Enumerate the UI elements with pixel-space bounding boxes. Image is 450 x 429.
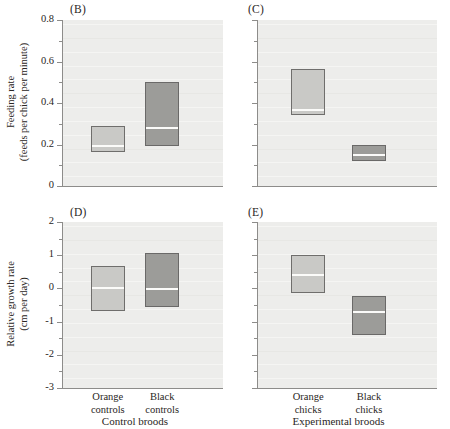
panel-d-yminortick — [59, 371, 63, 372]
panel-b-box-0 — [91, 126, 125, 152]
x-category-label-3: Blackchicks — [334, 391, 404, 416]
panel-b-ytick — [57, 103, 63, 104]
panel-b-ytick-label: 0.8 — [28, 13, 54, 24]
scan-band — [258, 38, 437, 39]
scan-band — [258, 121, 437, 122]
panel-d-ytick — [57, 222, 63, 223]
panel-b-plot-area — [63, 20, 223, 186]
panel-e-ytick — [252, 355, 258, 356]
scan-band — [63, 351, 223, 352]
scan-band — [63, 93, 223, 94]
panel-b-yminortick — [59, 82, 63, 83]
panel-b-yminortick — [59, 124, 63, 125]
scan-band — [63, 107, 223, 108]
panel-c-yminortick — [254, 124, 258, 125]
scan-band — [258, 309, 437, 310]
panel-b-y-axis-title-line2: (feeds per chick per minute) — [17, 17, 30, 187]
scan-band — [258, 337, 437, 338]
panel-b-box-1 — [145, 82, 179, 146]
panel-e-ytick — [252, 322, 258, 323]
panel-b-label: (B) — [70, 3, 86, 15]
panel-d-ytick-label: 0 — [28, 281, 54, 292]
scan-band — [258, 24, 437, 25]
scan-band — [63, 66, 223, 67]
scan-band — [258, 351, 437, 352]
scan-band — [63, 149, 223, 150]
panel-c-box-0 — [291, 69, 325, 115]
panel-d-y-axis-title-line1: Relative growth rate — [4, 219, 17, 389]
scan-band — [258, 93, 437, 94]
panel-e-ytick — [252, 255, 258, 256]
panel-d-median-0 — [92, 287, 124, 289]
panel-e-label: (E) — [248, 206, 263, 218]
scan-band — [63, 337, 223, 338]
scan-band — [258, 52, 437, 53]
scan-band — [63, 254, 223, 255]
panel-c-ytick — [252, 186, 258, 187]
panel-d-y-axis — [62, 222, 63, 388]
panel-e-median-1 — [353, 311, 385, 313]
panel-e-y-axis — [257, 222, 258, 388]
x-category-label-2: Orangechicks — [273, 391, 343, 416]
panel-e-yminortick — [254, 305, 258, 306]
panel-e-yminortick — [254, 239, 258, 240]
panel-d-plot-area — [63, 222, 223, 388]
scan-band — [63, 295, 223, 296]
scan-band — [258, 295, 437, 296]
panel-d-yminortick — [59, 338, 63, 339]
panel-b-y-axis-title: Feeding rate(feeds per chick per minute) — [4, 17, 30, 187]
panel-b-ytick-label: 0.2 — [28, 138, 54, 149]
panel-b-ytick — [57, 20, 63, 21]
panel-b-ytick-label: 0.6 — [28, 55, 54, 66]
scan-band — [258, 107, 437, 108]
panel-d-x-axis — [62, 388, 223, 389]
scan-band — [63, 135, 223, 136]
scan-band — [63, 378, 223, 379]
experimental-broods-group-label: Experimental broods — [259, 415, 419, 427]
panel-e-yminortick — [254, 371, 258, 372]
panel-d-ytick — [57, 388, 63, 389]
panel-d-yminortick — [59, 239, 63, 240]
scan-band — [258, 176, 437, 177]
panel-c-x-axis — [257, 186, 437, 187]
panel-e-x-axis — [257, 388, 437, 389]
panel-b-x-axis — [62, 186, 223, 187]
panel-c-yminortick — [254, 165, 258, 166]
panel-e-ytick — [252, 388, 258, 389]
panel-c-ytick — [252, 103, 258, 104]
panel-b-ytick-label: 0 — [28, 179, 54, 190]
x-category-label-3-line1: Black — [334, 391, 404, 404]
panel-c-ytick — [252, 62, 258, 63]
scan-band — [63, 52, 223, 53]
panel-d-ytick-label: -1 — [28, 315, 54, 326]
panel-d-ytick-label: 1 — [28, 248, 54, 259]
panel-c-median-0 — [292, 109, 324, 111]
panel-b-y-axis-title-line1: Feeding rate — [4, 17, 17, 187]
panel-b-ytick — [57, 145, 63, 146]
panel-e-median-0 — [292, 274, 324, 276]
scan-band — [63, 364, 223, 365]
scan-band — [258, 226, 437, 227]
control-broods-group-label: Control broods — [55, 415, 215, 427]
panel-c-yminortick — [254, 82, 258, 83]
panel-c-median-1 — [353, 154, 385, 156]
panel-c-ytick — [252, 20, 258, 21]
panel-d-y-axis-title: Relative growth rate(cm per day) — [4, 219, 30, 389]
panel-d-median-1 — [146, 288, 178, 290]
panel-d-ytick — [57, 355, 63, 356]
scan-band — [63, 38, 223, 39]
panel-d-ytick-label: -3 — [28, 381, 54, 392]
panel-e-box-1 — [352, 296, 386, 335]
panel-d-label: (D) — [70, 206, 87, 218]
panel-c-y-axis — [257, 20, 258, 186]
panel-d-ytick-label: -2 — [28, 348, 54, 359]
panel-b-ytick — [57, 186, 63, 187]
panel-b-yminortick — [59, 41, 63, 42]
panel-d-ytick — [57, 255, 63, 256]
panel-d-ytick — [57, 288, 63, 289]
x-category-label-1-line1: Black — [127, 391, 197, 404]
panel-e-box-0 — [291, 255, 325, 293]
panel-c-yminortick — [254, 41, 258, 42]
scan-band — [258, 66, 437, 67]
scan-band — [63, 323, 223, 324]
